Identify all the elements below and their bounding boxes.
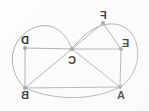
edge-c-f xyxy=(72,23,103,49)
vertex-dot-c[interactable] xyxy=(70,47,74,51)
graph-diagram-canvas: ABCDEF xyxy=(0,0,149,111)
vertex-dot-f[interactable] xyxy=(101,21,105,25)
vertex-dot-d[interactable] xyxy=(23,46,27,50)
vertex-label-a: A xyxy=(117,90,125,101)
vertex-label-c: C xyxy=(68,55,76,66)
edge-e-a xyxy=(120,49,121,87)
vertex-label-d: D xyxy=(21,35,29,46)
edge-curve-b-a xyxy=(25,87,120,98)
edge-d-c xyxy=(25,48,72,49)
vertex-label-f: F xyxy=(100,10,107,21)
edge-c-a xyxy=(72,49,120,87)
vertex-label-e: E xyxy=(122,38,129,49)
edge-curve-c-a xyxy=(72,24,138,87)
edge-f-e xyxy=(103,23,121,49)
edge-b-c xyxy=(25,49,72,88)
edge-b-a xyxy=(25,87,120,88)
vertex-label-b: B xyxy=(21,90,29,101)
